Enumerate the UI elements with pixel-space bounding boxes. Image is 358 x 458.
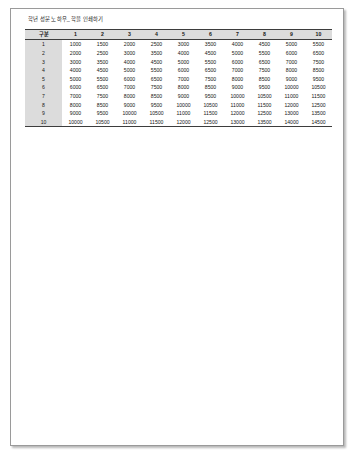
- table-cell: 14000: [278, 118, 305, 127]
- table-row: 5 5000 5500 6000 6500 7000 7500 8000 850…: [25, 75, 332, 84]
- table-cell: 7500: [143, 83, 170, 92]
- table-cell: 10000: [170, 101, 197, 110]
- table-cell: 9000: [170, 92, 197, 101]
- table-row: 3 3000 3500 4000 4500 5000 5500 6000 650…: [25, 58, 332, 67]
- row-label: 8: [25, 101, 62, 110]
- row-label: 3: [25, 58, 62, 67]
- table-row: 1 1000 1500 2000 2500 3000 3500 4000 450…: [25, 40, 332, 49]
- table-cell: 12500: [197, 118, 224, 127]
- table-cell: 5500: [197, 58, 224, 67]
- column-header-10: 10: [305, 30, 332, 40]
- table-cell: 8500: [197, 83, 224, 92]
- table-cell: 9000: [278, 75, 305, 84]
- data-table: 구분 1 2 3 4 5 6 7 8 9 10 1: [25, 29, 332, 127]
- column-header-5: 5: [170, 30, 197, 40]
- table-cell: 13500: [251, 118, 278, 127]
- table-header-row: 구분 1 2 3 4 5 6 7 8 9 10: [25, 30, 332, 40]
- column-header-8: 8: [251, 30, 278, 40]
- table-cell: 7000: [224, 66, 251, 75]
- table-cell: 7000: [278, 58, 305, 67]
- table-cell: 6500: [305, 49, 332, 58]
- table-cell: 5000: [62, 75, 89, 84]
- table-cell: 5500: [251, 49, 278, 58]
- table-cell: 4000: [62, 66, 89, 75]
- row-label: 2: [25, 49, 62, 58]
- table-cell: 13500: [305, 109, 332, 118]
- screenshot-viewport: 학년 성문 노하우_ 학을 인쇄하기 구분 1 2 3 4 5 6: [0, 0, 358, 458]
- row-label: 4: [25, 66, 62, 75]
- table-cell: 1500: [89, 40, 116, 49]
- table-cell: 12000: [224, 109, 251, 118]
- table-cell: 11500: [251, 101, 278, 110]
- table-cell: 11000: [116, 118, 143, 127]
- table-row: 2 2000 2500 3000 3500 4000 4500 5000 550…: [25, 49, 332, 58]
- table-cell: 9000: [116, 101, 143, 110]
- column-header-9: 9: [278, 30, 305, 40]
- table-cell: 5000: [278, 40, 305, 49]
- table-cell: 7000: [62, 92, 89, 101]
- table-cell: 8500: [89, 101, 116, 110]
- table-cell: 3500: [143, 49, 170, 58]
- table-cell: 9000: [224, 83, 251, 92]
- table-cell: 11000: [170, 109, 197, 118]
- table-row: 6 6000 6500 7000 7500 8000 8500 9000 950…: [25, 83, 332, 92]
- table-cell: 9500: [89, 109, 116, 118]
- page-content-area: 학년 성문 노하우_ 학을 인쇄하기 구분 1 2 3 4 5 6: [11, 9, 343, 445]
- table-header: 구분 1 2 3 4 5 6 7 8 9 10: [25, 30, 332, 40]
- table-cell: 2500: [143, 40, 170, 49]
- row-label: 10: [25, 118, 62, 127]
- table-cell: 10500: [197, 101, 224, 110]
- table-cell: 8000: [278, 66, 305, 75]
- table-cell: 10500: [143, 109, 170, 118]
- table-cell: 11500: [197, 109, 224, 118]
- table-cell: 9000: [62, 109, 89, 118]
- table-cell: 1000: [62, 40, 89, 49]
- table-cell: 5000: [170, 58, 197, 67]
- table-cell: 7500: [197, 75, 224, 84]
- row-label: 9: [25, 109, 62, 118]
- table-cell: 10000: [224, 92, 251, 101]
- table-cell: 12500: [251, 109, 278, 118]
- row-label: 5: [25, 75, 62, 84]
- table-row: 4 4000 4500 5000 5500 6000 6500 7000 750…: [25, 66, 332, 75]
- table-cell: 3500: [197, 40, 224, 49]
- table-cell: 6000: [170, 66, 197, 75]
- table-cell: 6500: [89, 83, 116, 92]
- table-cell: 2000: [116, 40, 143, 49]
- table-cell: 5500: [89, 75, 116, 84]
- table-cell: 7000: [170, 75, 197, 84]
- table-cell: 5000: [224, 49, 251, 58]
- column-header-2: 2: [89, 30, 116, 40]
- table-cell: 9500: [305, 75, 332, 84]
- table-cell: 11000: [224, 101, 251, 110]
- table-cell: 6000: [278, 49, 305, 58]
- table-cell: 12000: [278, 101, 305, 110]
- column-header-6: 6: [197, 30, 224, 40]
- table-cell: 6000: [116, 75, 143, 84]
- table-cell: 3000: [62, 58, 89, 67]
- table-cell: 6000: [224, 58, 251, 67]
- row-label: 7: [25, 92, 62, 101]
- page-empty-area: [25, 127, 332, 128]
- table-cell: 4500: [89, 66, 116, 75]
- table-cell: 9500: [197, 92, 224, 101]
- table-cell: 4000: [116, 58, 143, 67]
- table-cell: 11500: [305, 92, 332, 101]
- table-cell: 2500: [89, 49, 116, 58]
- table-cell: 10500: [89, 118, 116, 127]
- table-cell: 8500: [143, 92, 170, 101]
- table-cell: 10000: [116, 109, 143, 118]
- table-row: 8 8000 8500 9000 9500 10000 10500 11000 …: [25, 101, 332, 110]
- column-header-3: 3: [116, 30, 143, 40]
- table-corner-header: 구분: [25, 30, 62, 40]
- table-cell: 7500: [251, 66, 278, 75]
- table-cell: 8000: [170, 83, 197, 92]
- table-cell: 11000: [278, 92, 305, 101]
- table-cell: 2000: [62, 49, 89, 58]
- table-cell: 10500: [305, 83, 332, 92]
- table-row: 10 10000 10500 11000 11500 12000 12500 1…: [25, 118, 332, 127]
- table-cell: 9500: [143, 101, 170, 110]
- table-cell: 8000: [116, 92, 143, 101]
- table-cell: 10000: [62, 118, 89, 127]
- table-cell: 3000: [116, 49, 143, 58]
